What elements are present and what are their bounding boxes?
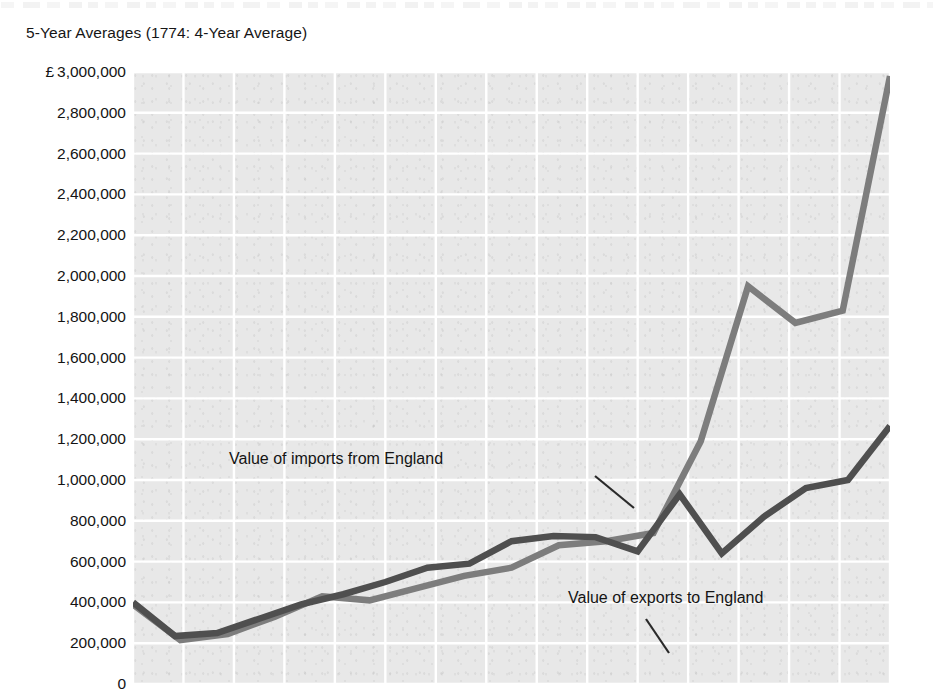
y-axis-tick-label: 1,800,000: [0, 309, 126, 325]
plot-area: [133, 72, 890, 684]
imports-label-leader-line: [595, 476, 634, 508]
y-axis-tick-label: 1,400,000: [0, 390, 126, 406]
y-axis-tick-label: £3,000,000: [0, 64, 126, 80]
y-axis-tick-label: 1,200,000: [0, 431, 126, 447]
y-axis-tick-label: 1,600,000: [0, 350, 126, 366]
y-axis-tick-label: 1,000,000: [0, 472, 126, 488]
y-axis-tick-label: 2,800,000: [0, 105, 126, 121]
y-axis-tick-label: 2,400,000: [0, 186, 126, 202]
exports-series-label: Value of exports to England: [568, 589, 763, 607]
y-axis-tick-label: 400,000: [0, 594, 126, 610]
imports-series-label: Value of imports from England: [229, 450, 443, 468]
y-axis-tick-label: 600,000: [0, 554, 126, 570]
y-axis-tick-label: 800,000: [0, 513, 126, 529]
y-axis-tick-label: 0: [0, 676, 126, 691]
y-axis: £3,000,0002,800,0002,600,0002,400,0002,2…: [0, 0, 126, 691]
y-axis-tick-label: 2,200,000: [0, 227, 126, 243]
exports-label-leader-line: [646, 619, 669, 653]
chart-page: 5-Year Averages (1774: 4-Year Average) £…: [0, 0, 933, 691]
y-axis-tick-label: 2,000,000: [0, 268, 126, 284]
y-axis-tick-label: 200,000: [0, 635, 126, 651]
scan-artifact-strip: [0, 0, 933, 14]
y-axis-tick-label: 2,600,000: [0, 146, 126, 162]
annotation-leader-lines: [133, 72, 890, 684]
currency-symbol: £: [45, 63, 54, 80]
